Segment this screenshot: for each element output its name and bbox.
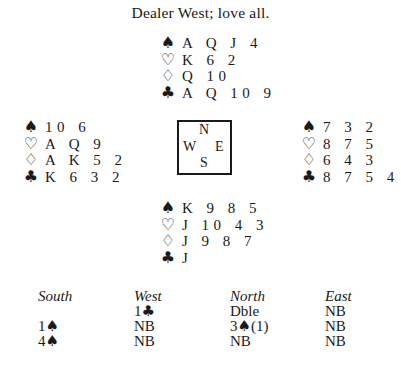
- compass-box: N W E S: [177, 120, 232, 175]
- bid-cell: NB: [134, 334, 155, 349]
- bid-cell: 4♠: [38, 334, 59, 349]
- bid-cell: 3♠(1): [230, 319, 268, 334]
- compass-north: N: [199, 123, 209, 137]
- north-clubs: A Q 10 9: [182, 85, 276, 102]
- south-spades: K 9 8 5: [182, 200, 261, 217]
- club-icon: ♣: [299, 169, 319, 186]
- west-diamonds: A K 5 2: [45, 152, 127, 169]
- bid-cell: 1♣: [134, 304, 155, 319]
- bid-cell: NB: [325, 334, 346, 349]
- bid-cell: NB: [325, 319, 346, 334]
- bidding-header-south: South: [38, 289, 72, 304]
- bid-footnote: (1): [251, 318, 269, 334]
- bid-cell: NB: [134, 319, 155, 334]
- east-clubs: 8 7 5 4: [323, 169, 399, 186]
- bid-cell: NB: [325, 304, 346, 319]
- south-hearts: J 10 4 3: [182, 217, 268, 234]
- compass-south: S: [200, 156, 208, 170]
- east-spades: 7 3 2: [323, 119, 378, 136]
- bidding-header-east: East: [325, 289, 352, 304]
- bidding-table: South West North East 1♣ Dble NB 1♠ NB 3…: [38, 289, 368, 349]
- bidding-header-north: North: [230, 289, 265, 304]
- north-diamonds: Q 10: [182, 68, 231, 85]
- club-icon: ♣: [21, 169, 41, 186]
- south-diamonds: J 9 8 7: [182, 233, 256, 250]
- east-diamonds: 6 4 3: [323, 152, 378, 169]
- club-icon: ♣: [158, 85, 178, 102]
- compass-east: E: [215, 140, 224, 154]
- deal-title: Dealer West; love all.: [0, 4, 401, 22]
- bid-cell: NB: [230, 334, 251, 349]
- bidding-header-row: South West North East: [38, 289, 368, 304]
- club-icon: ♣: [158, 250, 178, 267]
- bidding-row: 1♣ Dble NB: [38, 304, 368, 319]
- south-clubs: J: [182, 250, 192, 267]
- north-hearts: K 6 2: [182, 52, 240, 69]
- west-clubs: K 6 3 2: [45, 169, 124, 186]
- compass-west: W: [183, 140, 196, 154]
- bidding-row: 4♠ NB NB NB: [38, 334, 368, 349]
- north-spades: A Q J 4: [182, 35, 262, 52]
- east-hearts: 8 7 5: [323, 136, 378, 153]
- bidding-row: 1♠ NB 3♠(1) NB: [38, 319, 368, 334]
- spade-icon: ♠: [46, 332, 59, 350]
- west-spades: 10 6: [45, 119, 90, 136]
- west-hearts: A Q 9: [45, 136, 105, 153]
